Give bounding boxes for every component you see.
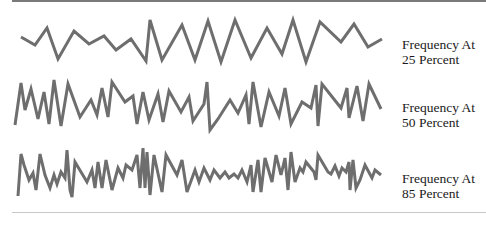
wave-25-percent [21,20,382,62]
label-25-percent: Frequency At 25 Percent [402,37,475,67]
wave-50-percent [15,80,381,130]
label-line-2: 50 Percent [402,115,475,130]
label-line-2: 25 Percent [402,52,475,67]
label-line-1: Frequency At [402,100,475,115]
label-line-2: 85 Percent [402,186,475,201]
label-50-percent: Frequency At 50 Percent [402,100,475,130]
label-line-1: Frequency At [402,171,475,186]
bottom-rule [12,212,486,213]
label-line-1: Frequency At [402,37,475,52]
label-85-percent: Frequency At 85 Percent [402,171,475,201]
wave-85-percent [18,148,381,197]
